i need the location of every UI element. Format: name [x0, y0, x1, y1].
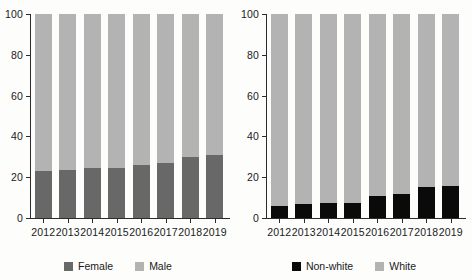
legend-label: White	[389, 260, 416, 272]
bar-2013	[59, 14, 76, 218]
legend-gender: FemaleMale	[0, 260, 236, 272]
x-tick-mark	[377, 219, 378, 223]
y-tick-label: 100	[5, 8, 23, 20]
y-axis-line	[30, 14, 31, 218]
bar-segment-non-white	[418, 187, 435, 218]
x-tick-label-2015: 2015	[341, 226, 365, 238]
chart-panel-gender: 020406080100 201220132014201520162017201…	[0, 0, 236, 280]
y-tick-label: 20	[247, 171, 259, 183]
y-tick-label: 60	[11, 90, 23, 102]
bar-segment-female	[35, 171, 52, 218]
y-tick-mark	[262, 218, 266, 219]
bar-segment-non-white	[271, 206, 288, 218]
y-tick-label: 80	[247, 49, 259, 61]
legend-swatch-icon	[292, 262, 301, 271]
bar-2015	[108, 14, 125, 218]
x-tick-mark	[166, 219, 167, 223]
y-tick-mark	[26, 55, 30, 56]
bar-segment-female	[182, 157, 199, 218]
y-tick-label: 100	[241, 8, 259, 20]
legend-swatch-icon	[135, 262, 144, 271]
bar-2014	[320, 14, 337, 218]
bar-segment-non-white	[393, 194, 410, 218]
y-axis-labels-left: 020406080100	[0, 0, 23, 248]
bar-segment-non-white	[369, 196, 386, 218]
bar-segment-white	[442, 14, 459, 186]
legend-item-male[interactable]: Male	[135, 260, 172, 272]
y-tick-label: 40	[247, 130, 259, 142]
y-tick-mark	[262, 96, 266, 97]
bar-2012	[35, 14, 52, 218]
y-tick-mark	[26, 96, 30, 97]
plot-wrapper-right: 020406080100 201220132014201520162017201…	[236, 0, 472, 248]
x-tick-label-2013: 2013	[56, 226, 80, 238]
bar-segment-male	[35, 14, 52, 171]
bar-segment-female	[108, 168, 125, 218]
legend-label: Female	[78, 260, 113, 272]
bar-segment-white	[418, 14, 435, 187]
x-tick-label-2018: 2018	[178, 226, 202, 238]
x-tick-label-2016: 2016	[365, 226, 389, 238]
plot-wrapper-left: 020406080100 201220132014201520162017201…	[0, 0, 236, 248]
chart-panel-race: 020406080100 201220132014201520162017201…	[236, 0, 472, 280]
bar-segment-male	[59, 14, 76, 170]
legend-race: Non-whiteWhite	[236, 260, 472, 272]
legend-item-female[interactable]: Female	[64, 260, 113, 272]
x-tick-mark	[141, 219, 142, 223]
bar-2012	[271, 14, 288, 218]
y-tick-label: 20	[11, 171, 23, 183]
bar-segment-non-white	[295, 204, 312, 218]
x-tick-mark	[43, 219, 44, 223]
x-tick-mark	[451, 219, 452, 223]
y-tick-mark	[26, 218, 30, 219]
bar-segment-male	[182, 14, 199, 157]
x-tick-mark	[304, 219, 305, 223]
x-tick-label-2013: 2013	[292, 226, 316, 238]
x-tick-label-2012: 2012	[31, 226, 55, 238]
x-tick-mark	[117, 219, 118, 223]
x-tick-label-2014: 2014	[80, 226, 104, 238]
y-tick-label: 0	[253, 212, 259, 224]
x-tick-mark	[215, 219, 216, 223]
bar-segment-white	[295, 14, 312, 204]
bar-segment-male	[108, 14, 125, 168]
bar-2016	[133, 14, 150, 218]
x-tick-label-2017: 2017	[154, 226, 178, 238]
y-tick-mark	[262, 136, 266, 137]
bar-segment-white	[369, 14, 386, 196]
x-tick-mark	[426, 219, 427, 223]
bar-2014	[84, 14, 101, 218]
x-tick-label-2017: 2017	[390, 226, 414, 238]
bar-2019	[206, 14, 223, 218]
x-tick-label-2012: 2012	[267, 226, 291, 238]
bar-segment-non-white	[344, 203, 361, 218]
x-axis-line	[266, 218, 466, 219]
bar-segment-female	[59, 170, 76, 218]
y-tick-label: 60	[247, 90, 259, 102]
x-tick-label-2016: 2016	[129, 226, 153, 238]
bar-segment-non-white	[442, 186, 459, 218]
legend-item-white[interactable]: White	[375, 260, 416, 272]
y-tick-label: 0	[17, 212, 23, 224]
bar-2015	[344, 14, 361, 218]
x-tick-mark	[328, 219, 329, 223]
y-tick-label: 40	[11, 130, 23, 142]
x-tick-mark	[353, 219, 354, 223]
bar-2019	[442, 14, 459, 218]
x-tick-mark	[279, 219, 280, 223]
bar-segment-female	[157, 163, 174, 218]
legend-item-non-white[interactable]: Non-white	[292, 260, 353, 272]
bar-2018	[182, 14, 199, 218]
bar-2017	[393, 14, 410, 218]
bar-segment-white	[320, 14, 337, 203]
bar-2017	[157, 14, 174, 218]
bar-segment-non-white	[320, 203, 337, 218]
bar-segment-white	[271, 14, 288, 206]
x-tick-mark	[402, 219, 403, 223]
bar-segment-white	[344, 14, 361, 203]
bar-segment-white	[393, 14, 410, 194]
legend-swatch-icon	[64, 262, 73, 271]
bar-segment-male	[133, 14, 150, 165]
bar-2018	[418, 14, 435, 218]
legend-swatch-icon	[375, 262, 384, 271]
